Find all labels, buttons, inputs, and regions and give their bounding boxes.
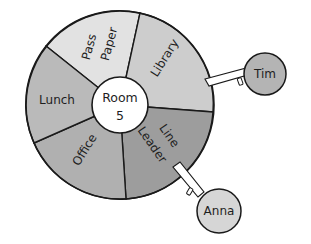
- name-tag-anna[interactable]: Anna: [173, 162, 241, 233]
- center-label-line1: Room: [102, 90, 138, 105]
- center-hub: Room 5: [92, 77, 148, 133]
- center-label-line2: 5: [116, 108, 124, 123]
- name-tag-tim[interactable]: Tim: [205, 53, 286, 95]
- anna-tag-label: Anna: [204, 204, 235, 218]
- job-wheel-diagram: Room 5 Pass Paper Library Line Leader Of…: [0, 0, 311, 244]
- tim-tag-label: Tim: [253, 67, 276, 81]
- tim-tag-clip: [237, 77, 243, 85]
- sector-label-lunch: Lunch: [39, 93, 75, 107]
- anna-tag-clip: [186, 187, 193, 195]
